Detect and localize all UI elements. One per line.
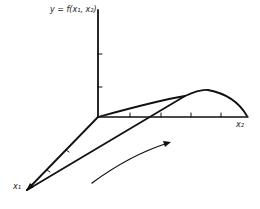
x1-axis-label: x₁ <box>13 182 21 191</box>
x2-axis-label: x₂ <box>236 120 244 129</box>
y-axis-label: y = f(x₁, x₂) <box>50 5 97 14</box>
x1-tick-2 <box>47 170 50 172</box>
arrowhead-icon <box>163 141 171 147</box>
direction-arrow <box>92 143 168 183</box>
surface-diagram <box>0 0 260 209</box>
x1-tick-1 <box>66 150 69 152</box>
chord-line <box>27 96 185 190</box>
